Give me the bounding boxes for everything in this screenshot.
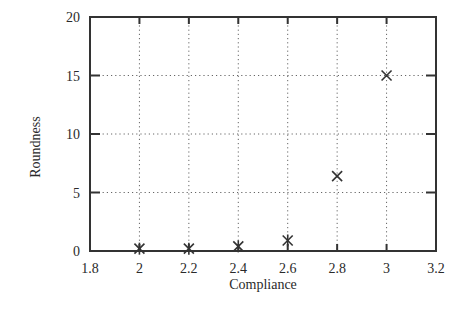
y-tick-label: 20 [66, 10, 80, 25]
y-tick-label: 5 [73, 186, 80, 201]
y-tick-label: 15 [66, 69, 80, 84]
x-tick-label: 3.2 [427, 261, 445, 276]
x-tick-label: 2.8 [328, 261, 346, 276]
x-tick-label: 1.8 [81, 261, 99, 276]
data-point-marker [233, 240, 243, 252]
x-tick-label: 2 [136, 261, 143, 276]
x-tick-label: 2.2 [180, 261, 198, 276]
data-point-marker [184, 243, 194, 255]
y-axis-title: Roundness [28, 116, 43, 177]
y-tick-label: 10 [66, 127, 80, 142]
data-point-marker [283, 234, 293, 246]
y-tick-labels: 05101520 [66, 10, 80, 259]
x-tick-labels: 1.822.22.42.62.833.2 [81, 261, 445, 276]
scatter-chart: 1.822.22.42.62.833.2 05101520 Compliance… [0, 0, 469, 309]
data-points [134, 71, 391, 255]
x-tick-label: 2.6 [279, 261, 297, 276]
grid-lines [90, 17, 436, 251]
x-axis-title: Compliance [229, 277, 297, 292]
x-tick-label: 2.4 [230, 261, 248, 276]
x-tick-label: 3 [383, 261, 390, 276]
y-tick-label: 0 [73, 244, 80, 259]
data-point-marker [134, 243, 144, 255]
